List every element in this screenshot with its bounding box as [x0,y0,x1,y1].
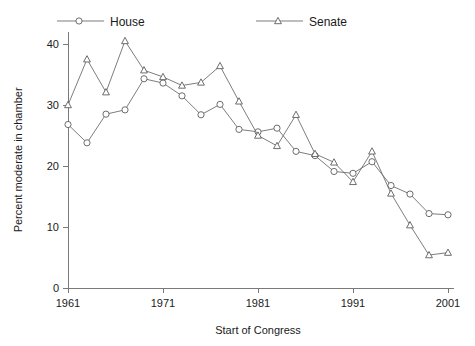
y-tick-label: 20 [47,160,59,172]
chart-axes [63,32,454,293]
chart-legend: HouseSenate [57,15,347,29]
data-point-senate [122,37,129,43]
data-point-house [293,148,299,154]
data-point-senate [293,111,300,117]
data-point-house [198,112,204,118]
x-axis-title: Start of Congress [215,324,301,336]
data-point-house [236,126,242,132]
data-point-house [369,159,375,165]
legend-label-house: House [110,15,145,29]
data-point-senate [84,56,91,62]
data-point-senate [407,222,414,228]
y-axis-title: Percent moderate in chamber [12,87,24,232]
data-point-house [331,168,337,174]
data-point-house [103,111,109,117]
data-point-house [274,125,280,131]
data-point-senate [236,98,243,104]
data-point-senate [331,159,338,165]
x-tick-label: 1981 [246,297,270,309]
data-point-house [122,107,128,113]
data-point-house [141,76,147,82]
y-tick-label: 0 [53,282,59,294]
data-point-senate [217,62,224,68]
data-point-house [426,210,432,216]
line-chart: HouseSenate 0102030401961197119811991200… [0,0,475,346]
legend-marker-circle [76,18,82,24]
data-point-senate [103,89,110,95]
x-tick-label: 1961 [56,297,80,309]
legend-label-senate: Senate [309,15,347,29]
x-tick-label: 1991 [341,297,365,309]
chart-series [65,37,452,257]
y-tick-label: 40 [47,38,59,50]
data-point-house [84,140,90,146]
data-point-senate [445,249,452,255]
data-point-house [65,121,71,127]
data-point-house [445,212,451,218]
data-point-house [217,101,223,107]
legend-item-senate: Senate [256,15,347,29]
y-tick-label: 10 [47,221,59,233]
data-point-senate [369,148,376,154]
legend-item-house: House [57,15,145,29]
data-point-house [407,191,413,197]
series-line-senate [68,41,448,255]
y-tick-label: 30 [47,99,59,111]
data-point-house [350,170,356,176]
data-point-senate [141,67,148,73]
data-point-senate [388,190,395,196]
series-senate [65,37,452,257]
data-point-senate [274,142,281,148]
chart-figure: HouseSenate 0102030401961197119811991200… [0,0,475,346]
data-point-house [179,93,185,99]
x-tick-label: 1971 [151,297,175,309]
data-point-house [160,80,166,86]
x-tick-label: 2001 [436,297,460,309]
